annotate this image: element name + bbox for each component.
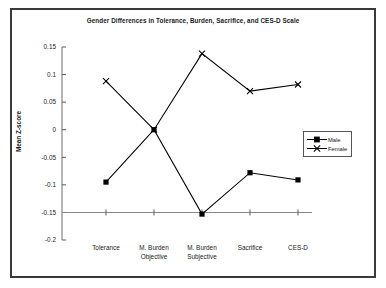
x-tick-label: Sacrifice [238,244,263,251]
x-tick-label: Tolerance [92,244,120,251]
y-tick-label: -0.05 [41,154,56,161]
chart-figure: Gender Differences in Tolerance, Burden,… [0,0,386,288]
y-tick-label: 0.1 [47,71,56,78]
series-line-female [106,54,298,130]
x-tick-label: M. Burden [139,244,169,251]
legend-item-female: Female [307,144,347,153]
marker-square [199,211,204,216]
legend-marker-square [307,135,327,144]
x-tick-label: CES-D [288,244,308,251]
series-line-male [106,130,298,214]
y-tick-label: -0.15 [41,209,56,216]
x-tick-label: M. Burden [187,244,217,251]
legend-label-female: Female [328,146,347,152]
chart-legend: Male Female [303,131,352,157]
y-axis: 0.150.10.050-0.05-0.1-0.15-0.2 [41,43,66,243]
x-tick-label: Objective [141,253,168,261]
y-tick-label: 0.15 [44,43,57,50]
x-axis [62,209,312,215]
x-tick-labels: ToleranceM. BurdenObjectiveM. BurdenSubj… [92,244,308,261]
y-tick-label: 0 [52,126,56,133]
marker-square [295,177,300,182]
legend-marker-x [307,144,327,153]
y-tick-label: 0.05 [44,98,57,105]
marker-square [103,180,108,185]
data-series-group [103,51,301,217]
x-tick-label: Subjective [187,253,217,261]
legend-label-male: Male [328,137,341,143]
marker-square [247,170,252,175]
y-tick-label: -0.2 [45,236,56,243]
y-tick-label: -0.1 [45,181,56,188]
legend-item-male: Male [307,135,347,144]
